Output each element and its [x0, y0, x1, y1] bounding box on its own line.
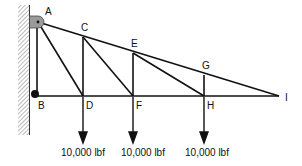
arrow-down-icon	[129, 132, 137, 143]
label-F: F	[136, 100, 142, 111]
load-labels: 10,000 lbf 10,000 lbf 10,000 lbf	[61, 147, 229, 158]
label-A: A	[45, 6, 52, 17]
truss-members	[36, 22, 279, 96]
label-E: E	[131, 38, 138, 49]
truss-diagram: A B C D E F G H I 10,000 lbf 10,000 lbf …	[0, 0, 302, 166]
pin-icon	[37, 21, 40, 24]
arrow-down-icon	[200, 132, 208, 143]
load-label-H: 10,000 lbf	[185, 147, 229, 158]
pin-support-A	[30, 16, 45, 28]
arrow-down-icon	[79, 132, 87, 143]
label-B: B	[38, 100, 45, 111]
load-label-D: 10,000 lbf	[61, 147, 105, 158]
wall-hatch	[18, 5, 29, 135]
member-top-chord	[38, 22, 279, 96]
load-label-F: 10,000 lbf	[121, 147, 165, 158]
member-EH	[133, 53, 204, 96]
label-H: H	[207, 100, 214, 111]
label-C: C	[81, 22, 88, 33]
load-arrows	[79, 97, 208, 143]
member-CF	[83, 37, 133, 96]
label-G: G	[202, 60, 210, 71]
roller-support-B-icon	[31, 90, 39, 98]
label-D: D	[86, 100, 93, 111]
wall	[18, 5, 30, 135]
label-I: I	[285, 92, 288, 103]
